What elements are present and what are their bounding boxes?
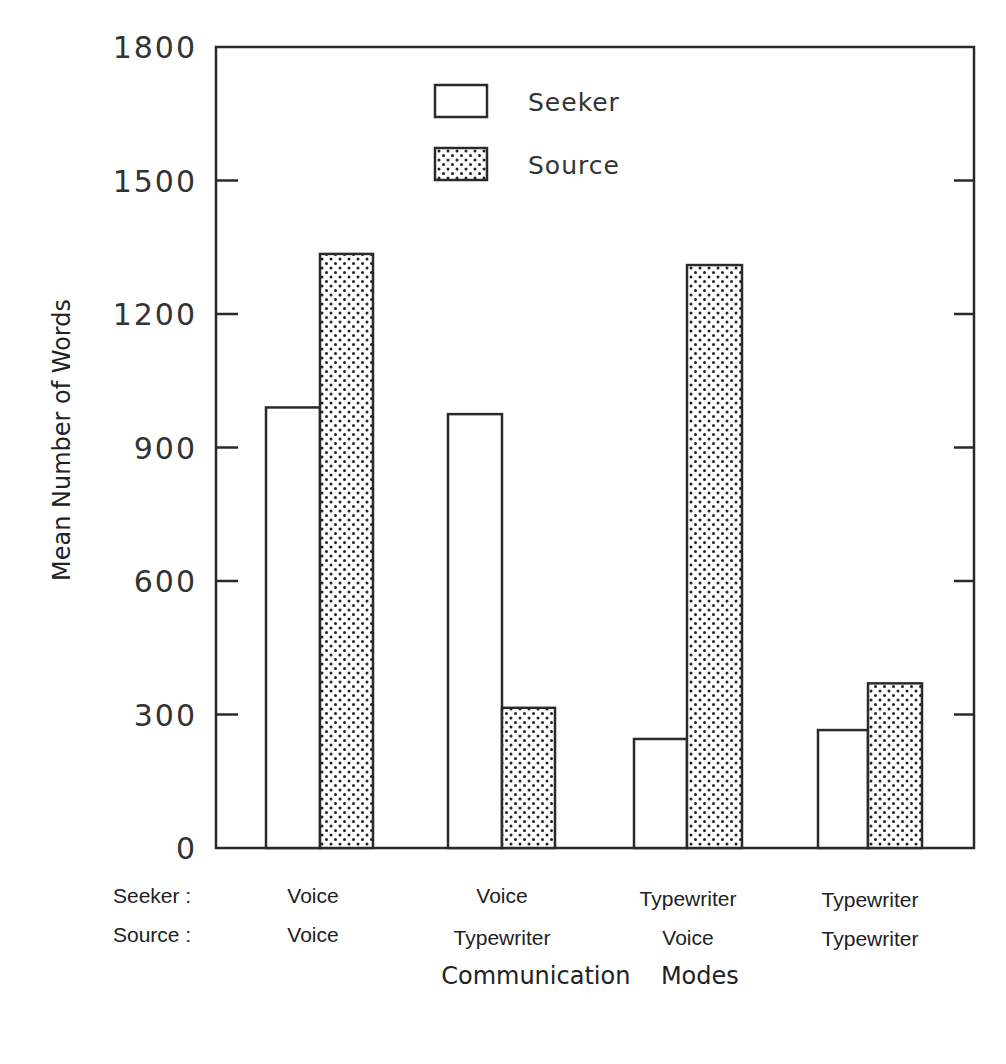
bar-seeker <box>634 739 687 848</box>
x-axis-category-labels: Seeker :Source :VoiceVoiceVoiceTypewrite… <box>113 884 918 950</box>
bar-chart: 0300600900120015001800 SeekerSource Seek… <box>0 0 1006 1064</box>
bars <box>266 254 922 848</box>
bar-seeker <box>818 730 868 848</box>
y-tick-label: 300 <box>134 698 197 733</box>
y-tick-label: 900 <box>134 431 197 466</box>
category-seeker-mode: Typewriter <box>640 887 737 910</box>
y-tick-label: 1500 <box>113 164 197 199</box>
category-source-mode: Typewriter <box>454 926 551 949</box>
row-label-seeker: Seeker : <box>113 884 191 907</box>
bar-source <box>868 683 922 848</box>
bar-source <box>320 254 373 848</box>
category-source-mode: Voice <box>287 923 338 946</box>
row-label-source: Source : <box>113 923 191 946</box>
category-source-mode: Typewriter <box>822 927 919 950</box>
bar-seeker <box>266 407 320 848</box>
bar-source <box>687 265 742 848</box>
y-tick-label: 1200 <box>113 297 197 332</box>
category-seeker-mode: Voice <box>476 884 527 907</box>
x-axis-title: Communication Modes <box>441 962 739 990</box>
legend-label-seeker: Seeker <box>528 88 620 117</box>
bar-seeker <box>448 414 502 848</box>
y-axis-title: Mean Number of Words <box>48 299 76 581</box>
legend-label-source: Source <box>528 151 620 180</box>
category-source-mode: Voice <box>662 926 713 949</box>
legend: SeekerSource <box>435 85 620 180</box>
legend-swatch-source <box>435 148 487 180</box>
legend-swatch-seeker <box>435 85 487 117</box>
y-tick-label: 600 <box>134 564 197 599</box>
bar-source <box>502 708 555 848</box>
category-seeker-mode: Voice <box>287 884 338 907</box>
y-tick-label: 0 <box>176 831 197 866</box>
category-seeker-mode: Typewriter <box>822 888 919 911</box>
y-tick-label: 1800 <box>113 30 197 65</box>
